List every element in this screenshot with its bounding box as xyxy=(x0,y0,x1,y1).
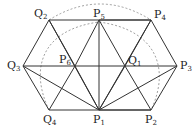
label-p3: P3 xyxy=(180,60,192,73)
segment-p2-p3 xyxy=(151,66,177,110)
label-p2: P2 xyxy=(145,114,157,127)
geometry-diagram: P1P2P3P4P5P6Q1Q2Q3Q4 xyxy=(0,0,196,132)
label-p5: P5 xyxy=(93,8,105,21)
solid-segments xyxy=(23,20,177,110)
segment-q1-p1 xyxy=(99,66,125,110)
label-q4: Q4 xyxy=(43,114,57,127)
label-p1: P1 xyxy=(93,114,105,127)
segment-q3-q4 xyxy=(23,66,49,110)
segment-q4-p6 xyxy=(49,66,75,110)
label-q1: Q1 xyxy=(128,55,142,68)
segment-p3-p4 xyxy=(151,20,177,66)
segment-q1-p2 xyxy=(125,66,151,110)
label-q2: Q2 xyxy=(34,8,48,21)
label-p6: P6 xyxy=(59,54,71,67)
segment-q2-q3 xyxy=(23,20,49,66)
segment-p5-p6 xyxy=(75,20,99,66)
segment-q3-p1 xyxy=(23,66,99,110)
segment-p5-q1 xyxy=(99,20,125,66)
label-p4: P4 xyxy=(154,9,166,22)
label-q3: Q3 xyxy=(7,60,21,73)
